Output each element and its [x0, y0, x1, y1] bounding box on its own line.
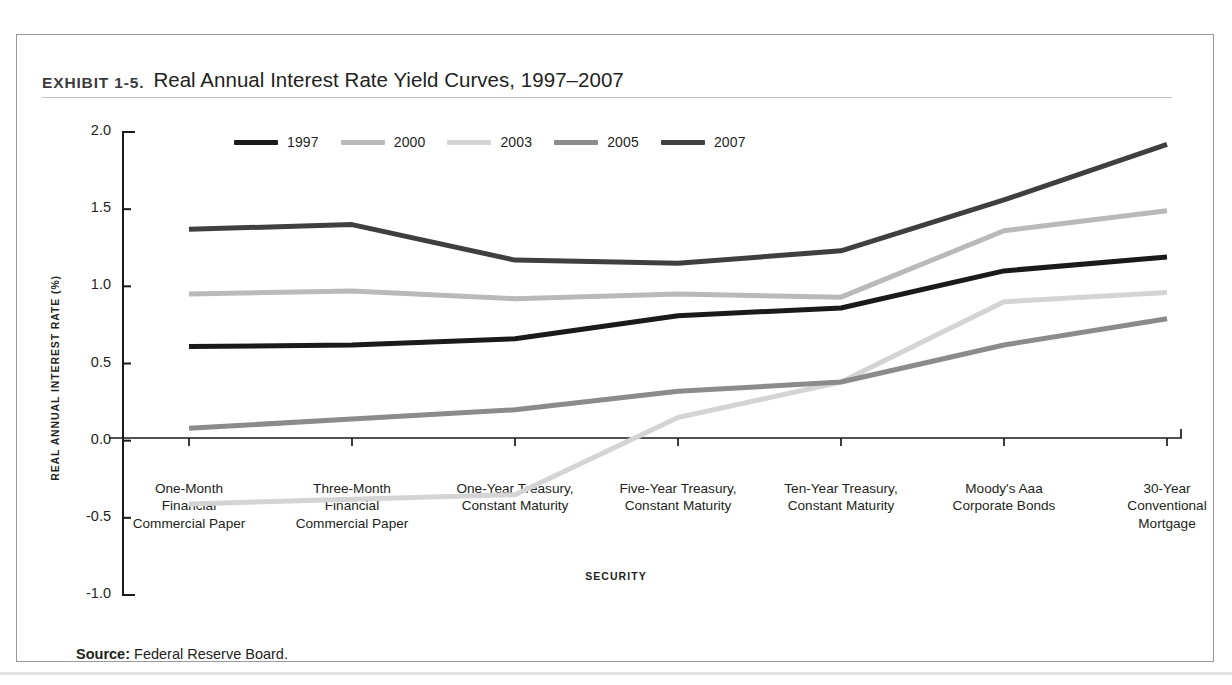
- page-bottom-rule: [0, 672, 1232, 675]
- page-canvas: REAL ANNUAL INTEREST RATE (%) SECURITY 2…: [0, 0, 1232, 685]
- source-label: Source:: [76, 646, 130, 662]
- source-text: Federal Reserve Board.: [134, 646, 288, 662]
- source-note: Source: Federal Reserve Board.: [76, 646, 288, 662]
- exhibit-kicker: Exhibit 1-5.: [42, 74, 144, 92]
- page-top-edge: [0, 0, 1232, 2]
- chart-plot-area: REAL ANNUAL INTEREST RATE (%) SECURITY 2…: [17, 35, 1215, 663]
- page-title: Real Annual Interest Rate Yield Curves, …: [153, 68, 623, 92]
- exhibit-header: Exhibit 1-5. Real Annual Interest Rate Y…: [42, 48, 1182, 92]
- chart-canvas: [17, 35, 1215, 663]
- header-divider: [42, 97, 1172, 98]
- exhibit-frame: REAL ANNUAL INTEREST RATE (%) SECURITY 2…: [16, 34, 1214, 662]
